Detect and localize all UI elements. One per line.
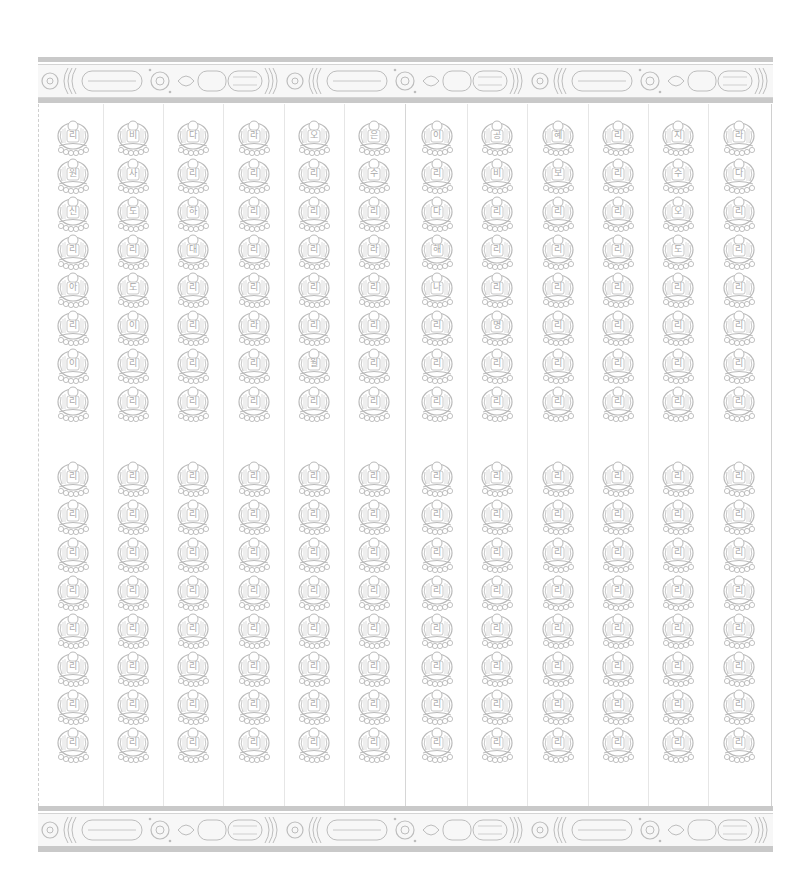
buddha-figure: 리 — [477, 233, 517, 271]
buddha-figure: 해 — [417, 233, 457, 271]
buddha-figure: 다 — [719, 157, 759, 195]
buddha-figure: 리 — [417, 385, 457, 423]
buddha-figure: 리 — [598, 726, 638, 764]
buddha-figure: 리 — [417, 688, 457, 726]
buddha-name-label: 리 — [719, 320, 759, 330]
buddha-name-label: 리 — [417, 168, 457, 178]
column-separator — [708, 104, 709, 806]
buddha-name-label: 리 — [417, 585, 457, 595]
buddha-figure: 리 — [598, 195, 638, 233]
buddha-name-label: 리 — [53, 623, 93, 633]
buddha-name-label: 리 — [719, 547, 759, 557]
buddha-figure: 리 — [538, 536, 578, 574]
buddha-name-label: 리 — [173, 585, 213, 595]
buddha-name-label: 수 — [354, 168, 394, 178]
buddha-figure: 리 — [354, 574, 394, 612]
buddha-figure: 리 — [719, 650, 759, 688]
buddha-figure: 이 — [417, 119, 457, 157]
buddha-figure: 리 — [234, 612, 274, 650]
buddha-name-label: 리 — [354, 509, 394, 519]
buddha-figure: 라 — [719, 119, 759, 157]
buddha-figure: 리 — [294, 271, 334, 309]
buddha-name-label: 리 — [53, 244, 93, 254]
buddha-figure: 리 — [294, 460, 334, 498]
buddha-name-label: 리 — [538, 509, 578, 519]
buddha-name-label: 리 — [354, 737, 394, 747]
buddha-name-label: 리 — [538, 358, 578, 368]
buddha-figure: 리 — [53, 612, 93, 650]
buddha-name-label: 리 — [598, 623, 638, 633]
buddha-figure: 리 — [477, 650, 517, 688]
buddha-name-label: 리 — [719, 623, 759, 633]
buddha-name-label: 라 — [234, 320, 274, 330]
buddha-figure: 리 — [417, 650, 457, 688]
buddha-name-label: 리 — [354, 282, 394, 292]
buddha-name-label: 은 — [354, 130, 394, 140]
buddha-figure: 리 — [417, 347, 457, 385]
buddha-name-label: 리 — [538, 471, 578, 481]
buddha-figure: 리 — [719, 574, 759, 612]
buddha-name-label: 리 — [354, 585, 394, 595]
buddha-name-label: 리 — [354, 396, 394, 406]
buddha-figure: 리 — [538, 498, 578, 536]
buddha-name-label: 리 — [477, 547, 517, 557]
buddha-name-label: 다 — [719, 168, 759, 178]
buddha-name-label: 리 — [598, 547, 638, 557]
buddha-name-label: 리 — [598, 358, 638, 368]
buddha-figure: 리 — [417, 536, 457, 574]
buddha-name-label: 리 — [234, 244, 274, 254]
buddha-name-label: 리 — [598, 471, 638, 481]
buddha-figure: 리 — [53, 726, 93, 764]
buddha-figure: 리 — [417, 460, 457, 498]
buddha-figure: 리 — [173, 385, 213, 423]
buddha-figure: 리 — [354, 385, 394, 423]
buddha-name-label: 리 — [658, 509, 698, 519]
buddha-name-label: 오 — [658, 206, 698, 216]
buddha-figure: 리 — [719, 271, 759, 309]
column-separator — [467, 104, 468, 806]
buddha-figure: 리 — [234, 460, 274, 498]
buddha-name-label: 사 — [113, 168, 153, 178]
buddha-figure: 리 — [477, 195, 517, 233]
buddha-name-label: 라 — [719, 130, 759, 140]
buddha-figure: 도 — [113, 271, 153, 309]
buddha-figure: 리 — [173, 271, 213, 309]
buddha-name-label: 리 — [477, 661, 517, 671]
buddha-figure: 리 — [417, 309, 457, 347]
buddha-figure: 수 — [658, 157, 698, 195]
buddha-name-label: 리 — [113, 244, 153, 254]
buddha-name-label: 아 — [53, 282, 93, 292]
buddha-name-label: 리 — [538, 585, 578, 595]
buddha-name-label: 비 — [113, 130, 153, 140]
buddha-figure: 이 — [53, 347, 93, 385]
buddha-figure: 리 — [477, 536, 517, 574]
buddha-name-label: 리 — [417, 358, 457, 368]
buddha-name-label: 리 — [417, 623, 457, 633]
buddha-figure: 리 — [538, 650, 578, 688]
buddha-figure: 리 — [173, 536, 213, 574]
right-edge-line — [771, 104, 772, 806]
buddha-figure: 리 — [173, 498, 213, 536]
buddha-figure: 원 — [53, 157, 93, 195]
bottom-band-outer — [38, 846, 773, 852]
buddha-figure: 수 — [354, 157, 394, 195]
buddha-name-label: 리 — [113, 585, 153, 595]
buddha-figure: 리 — [719, 195, 759, 233]
buddha-name-label: 리 — [354, 206, 394, 216]
buddha-figure: 리 — [294, 233, 334, 271]
buddha-name-label: 리 — [598, 320, 638, 330]
buddha-figure: 리 — [538, 271, 578, 309]
buddha-name-label: 라 — [354, 244, 394, 254]
buddha-name-label: 해 — [417, 244, 457, 254]
buddha-name-label: 리 — [234, 547, 274, 557]
buddha-figure: 리 — [719, 688, 759, 726]
buddha-name-label: 도 — [658, 244, 698, 254]
buddha-figure: 리 — [294, 195, 334, 233]
buddha-figure: 리 — [477, 574, 517, 612]
buddha-name-label: 리 — [538, 320, 578, 330]
column-separator — [223, 104, 224, 806]
buddha-name-label: 리 — [294, 244, 334, 254]
buddha-name-label: 원 — [53, 168, 93, 178]
buddha-figure: 리 — [598, 309, 638, 347]
buddha-figure: 리 — [658, 385, 698, 423]
